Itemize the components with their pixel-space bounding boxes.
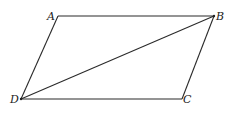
vertex-d-dot — [20, 98, 22, 100]
edge-bc — [182, 16, 214, 99]
vertex-label-d: D — [9, 93, 19, 106]
vertex-b-dot — [213, 15, 215, 17]
vertex-label-a: A — [46, 10, 55, 23]
vertex-label-c: C — [183, 93, 192, 106]
parallelogram-diagram: A B C D — [0, 0, 236, 115]
edge-da — [21, 16, 58, 99]
diagonal-db — [21, 16, 214, 99]
vertex-label-b: B — [215, 10, 224, 23]
